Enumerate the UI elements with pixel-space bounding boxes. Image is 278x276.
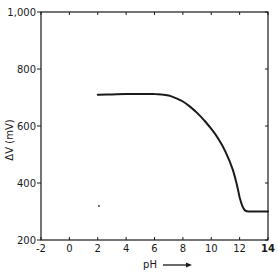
x-tick-label: 2 — [95, 243, 101, 254]
stray-dot — [98, 205, 100, 207]
data-line — [98, 94, 268, 211]
x-axis-ticks — [41, 12, 268, 240]
x-tick-label: -2 — [36, 243, 46, 254]
y-tick-label: 600 — [17, 121, 36, 132]
x-tick-label: 4 — [123, 243, 129, 254]
y-tick-label: 800 — [17, 64, 36, 75]
arrow-right-icon — [163, 263, 192, 268]
chart: -202468101214 2004006008001,000 ΔV (mV) … — [0, 0, 278, 276]
x-axis-label: pH — [143, 259, 157, 270]
y-axis-label: ΔV (mV) — [4, 119, 15, 160]
x-tick-label: 6 — [151, 243, 157, 254]
x-tick-label: 12 — [233, 243, 246, 254]
x-tick-label: 8 — [180, 243, 186, 254]
y-tick-label: 200 — [17, 235, 36, 246]
y-axis-ticks — [37, 12, 268, 240]
y-tick-label: 1,000 — [7, 7, 36, 18]
x-tick-label: 10 — [205, 243, 218, 254]
plot-frame — [41, 12, 268, 240]
x-axis-tick-labels: -202468101214 — [36, 243, 275, 254]
x-tick-label: 0 — [66, 243, 72, 254]
y-tick-label: 400 — [17, 178, 36, 189]
x-tick-label: 14 — [261, 243, 275, 254]
